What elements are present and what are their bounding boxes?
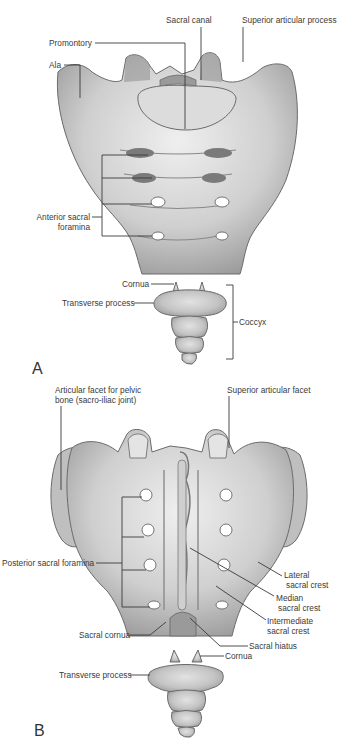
label-articular-facet-line2: bone (sacro-iliac joint) — [55, 395, 141, 405]
coccyx-posterior-view — [148, 650, 223, 737]
label-lateral-sacral-crest: Lateral sacral crest — [284, 570, 328, 590]
sacrum-anterior-view — [57, 53, 297, 274]
label-median-sacral-crest: Median sacral crest — [276, 593, 320, 613]
sacrum-posterior-view — [51, 429, 307, 636]
label-posterior-sacral-foramina: Posterior sacral foramina — [2, 558, 94, 568]
coccyx-anterior-view — [154, 282, 226, 364]
label-transverse-process-a: Transverse process — [62, 298, 135, 308]
panel-letter-b: B — [34, 722, 45, 740]
label-ala: Ala — [49, 60, 61, 70]
label-articular-facet-pelvic-bone: Articular facet for pelvic bone (sacro-i… — [55, 385, 141, 405]
label-intermediate-sacral-crest: Intermediate sacral crest — [267, 616, 313, 636]
label-intermediate-sacral-crest-line1: Intermediate — [267, 616, 313, 626]
label-promontory: Promontory — [49, 38, 92, 48]
label-transverse-process-b: Transverse process — [59, 670, 132, 680]
label-cornua-a: Cornua — [122, 279, 149, 289]
label-lateral-sacral-crest-line2: sacral crest — [284, 580, 328, 590]
label-superior-articular-process: Superior articular process — [242, 15, 337, 25]
label-intermediate-sacral-crest-line2: sacral crest — [267, 626, 313, 636]
label-anterior-sacral-foramina-line1: Anterior sacral — [20, 212, 90, 222]
label-sacral-cornua: Sacral cornua — [79, 630, 130, 640]
label-superior-articular-facet: Superior articular facet — [227, 385, 310, 395]
label-cornua-b: Cornua — [225, 651, 252, 661]
label-sacral-canal: Sacral canal — [166, 15, 212, 25]
label-median-sacral-crest-line1: Median — [276, 593, 320, 603]
label-sacral-hiatus: Sacral hiatus — [249, 641, 297, 651]
label-anterior-sacral-foramina-line2: foramina — [20, 222, 90, 232]
label-articular-facet-line1: Articular facet for pelvic — [55, 385, 141, 395]
label-lateral-sacral-crest-line1: Lateral — [284, 570, 328, 580]
label-anterior-sacral-foramina: Anterior sacral foramina — [20, 212, 90, 232]
label-coccyx: Coccyx — [239, 317, 266, 327]
panel-letter-a: A — [32, 360, 43, 378]
label-median-sacral-crest-line2: sacral crest — [276, 603, 320, 613]
